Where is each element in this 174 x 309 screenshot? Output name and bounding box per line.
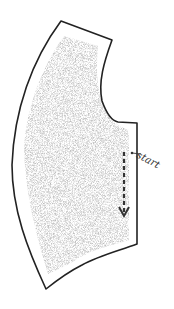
stippled-fill bbox=[24, 36, 129, 274]
